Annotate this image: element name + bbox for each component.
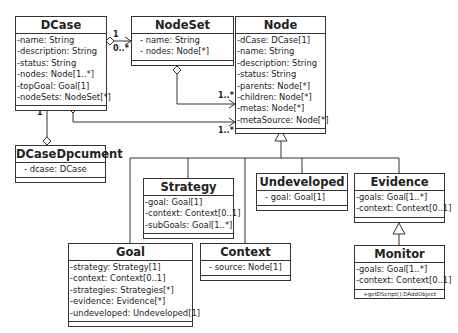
mult-dcase-nodeset-1: 1 xyxy=(113,30,119,39)
attribute: -name: String xyxy=(236,46,325,57)
operations-compartment xyxy=(132,60,233,65)
attribute: -dCase: DCase[1] xyxy=(236,35,325,46)
class-name: Goal xyxy=(69,244,192,261)
operations-compartment xyxy=(16,177,105,182)
attribute: -goals: Goal[1..*] xyxy=(355,264,444,275)
operations-compartment xyxy=(16,105,106,110)
operations-compartment xyxy=(144,233,233,238)
attribute: -metas: Node[*] xyxy=(236,103,325,114)
attribute: -status: String xyxy=(16,58,106,69)
class-name: DCaseDpcument xyxy=(16,146,105,163)
attribute: -parents: Node[*] xyxy=(236,81,325,92)
attribute: -metaSource: Node[*] xyxy=(236,115,325,126)
mult-dcase-node: 1..* xyxy=(218,126,234,135)
class-goal[interactable]: Goal -strategy: Strategy[1] -context: Co… xyxy=(68,243,193,327)
class-evidence[interactable]: Evidence -goals: Goal[1..*] -context: Co… xyxy=(354,173,445,223)
attribute: -description: String xyxy=(236,58,325,69)
mult-nodeset-node: 1..* xyxy=(218,91,234,100)
class-name: Monitor xyxy=(355,246,444,263)
class-dcase[interactable]: DCase -name: String -description: String… xyxy=(15,16,107,111)
class-dcasedocument[interactable]: DCaseDpcument - dcase: DCase xyxy=(15,145,106,183)
attribute: -status: String xyxy=(236,69,325,80)
operations-compartment xyxy=(201,275,290,280)
attribute: -topGoal: Goal[1] xyxy=(16,81,106,92)
attribute: -context: Context[0..1] xyxy=(355,203,444,214)
class-node[interactable]: Node -dCase: DCase[1] -name: String -des… xyxy=(235,16,326,134)
class-name: NodeSet xyxy=(132,17,233,34)
attribute: -nodeSets: NodeSet[*] xyxy=(16,92,106,103)
attribute: -nodes: Node[1..*] xyxy=(16,69,106,80)
attribute: - source: Node[1] xyxy=(201,262,290,273)
attribute: -goals: Goal[1..*] xyxy=(355,192,444,203)
class-name: Context xyxy=(201,244,290,261)
class-name: Evidence xyxy=(355,174,444,191)
class-monitor[interactable]: Monitor -goals: Goal[1..*] -context: Con… xyxy=(354,245,445,299)
operations-compartment xyxy=(355,217,444,222)
attribute: -description: String xyxy=(16,46,106,57)
attribute: -goal: Goal[1] xyxy=(144,197,233,208)
attribute: - name: String xyxy=(132,35,233,46)
attribute: -strategy: Strategy[1] xyxy=(69,262,192,273)
attribute: -children: Node[*] xyxy=(236,92,325,103)
class-context[interactable]: Context - source: Node[1] xyxy=(200,243,291,281)
attribute: - goal: Goal[1] xyxy=(257,192,347,203)
attribute: -evidence: Evidence[*] xyxy=(69,296,192,307)
operations-compartment: +getDScript():DAddObject xyxy=(355,289,444,298)
class-undeveloped[interactable]: Undeveloped - goal: Goal[1] xyxy=(256,173,348,211)
attribute: -subGoals: Goal[1..*] xyxy=(144,220,233,231)
attribute: -undeveloped: Undeveloped[1] xyxy=(69,308,192,319)
attribute: -context: Context[0..1] xyxy=(69,273,192,284)
attribute: - nodes: Node[*] xyxy=(132,46,233,57)
operations-compartment xyxy=(236,128,325,133)
class-strategy[interactable]: Strategy -goal: Goal[1] -context: Contex… xyxy=(143,178,234,239)
class-name: Node xyxy=(236,17,325,34)
attribute: - dcase: DCase xyxy=(16,164,105,175)
class-name: Undeveloped xyxy=(257,174,347,191)
attribute: -name: String xyxy=(16,35,106,46)
class-nodeset[interactable]: NodeSet - name: String - nodes: Node[*] xyxy=(131,16,234,66)
attribute: -context: Context[0..1] xyxy=(355,275,444,286)
mult-dcase-nodeset-0star: 0..* xyxy=(113,44,129,53)
class-name: DCase xyxy=(16,17,106,34)
operations-compartment xyxy=(69,321,192,326)
operations-compartment xyxy=(257,205,347,210)
attribute: -context: Context[0..1] xyxy=(144,208,233,219)
operation: +getDScript():DAddObject xyxy=(355,290,444,298)
attribute: -strategies: Strategies[*] xyxy=(69,285,192,296)
class-name: Strategy xyxy=(144,179,233,196)
